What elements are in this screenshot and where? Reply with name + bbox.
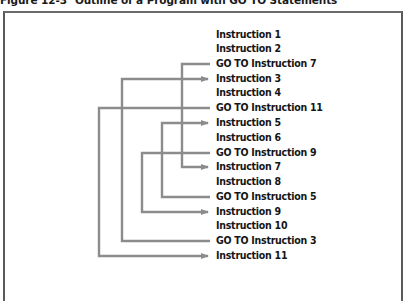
- goto-instruction-7: GO TO Instruction 7: [216, 57, 316, 71]
- jump-goto-3-line: [122, 79, 210, 241]
- goto-instruction-5: GO TO Instruction 5: [216, 190, 316, 204]
- instruction-11: Instruction 11: [216, 249, 287, 263]
- jump-goto-5-line: [162, 123, 210, 197]
- instruction-9: Instruction 9: [216, 205, 281, 219]
- instruction-1: Instruction 1: [216, 28, 281, 42]
- instruction-8: Instruction 8: [216, 175, 281, 189]
- instruction-6: Instruction 6: [216, 131, 281, 145]
- goto-instruction-11: GO TO Instruction 11: [216, 101, 323, 115]
- jump-goto-11-line: [99, 108, 210, 256]
- instruction-2: Instruction 2: [216, 42, 281, 56]
- goto-instruction-3: GO TO Instruction 3: [216, 234, 316, 248]
- instruction-5: Instruction 5: [216, 116, 281, 130]
- instruction-3: Instruction 3: [216, 72, 281, 86]
- jump-goto-9-line: [142, 153, 210, 212]
- instruction-4: Instruction 4: [216, 86, 281, 100]
- goto-instruction-9: GO TO Instruction 9: [216, 146, 316, 160]
- instruction-7: Instruction 7: [216, 160, 281, 174]
- instruction-10: Instruction 10: [216, 219, 287, 233]
